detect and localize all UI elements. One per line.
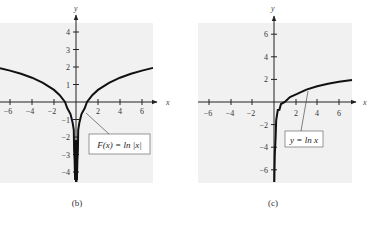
svg-text:6: 6 bbox=[337, 109, 341, 118]
svg-text:6: 6 bbox=[264, 30, 268, 39]
svg-text:3: 3 bbox=[66, 46, 70, 55]
svg-text:−2: −2 bbox=[61, 133, 70, 142]
svg-text:2: 2 bbox=[66, 63, 70, 72]
svg-text:4: 4 bbox=[264, 53, 268, 62]
function-label-b: F(x) = ln |x| bbox=[96, 140, 141, 150]
chart-panel-b: x y −6 −4 −2 2 4 6 bbox=[0, 4, 170, 208]
chart-panel-c: x y −6 −4 −2 2 4 6 2 bbox=[198, 4, 367, 208]
svg-text:−4: −4 bbox=[259, 143, 268, 152]
svg-text:−3: −3 bbox=[61, 151, 70, 160]
svg-text:2: 2 bbox=[294, 109, 298, 118]
svg-text:−2: −2 bbox=[48, 107, 57, 116]
svg-text:−4: −4 bbox=[226, 109, 235, 118]
caption-c: (c) bbox=[268, 198, 278, 208]
x-axis-label-c: x bbox=[362, 98, 367, 107]
svg-text:4: 4 bbox=[66, 28, 70, 37]
y-axis-label-c: y bbox=[270, 4, 275, 13]
svg-text:−2: −2 bbox=[259, 121, 268, 130]
figure-canvas: x y −6 −4 −2 2 4 6 bbox=[0, 0, 377, 227]
svg-text:−6: −6 bbox=[204, 109, 213, 118]
svg-text:2: 2 bbox=[264, 75, 268, 84]
svg-text:−6: −6 bbox=[259, 166, 268, 175]
svg-text:4: 4 bbox=[315, 109, 319, 118]
svg-text:6: 6 bbox=[140, 107, 144, 116]
y-axis-label-b: y bbox=[73, 4, 78, 13]
svg-text:−6: −6 bbox=[4, 107, 13, 116]
svg-text:−4: −4 bbox=[61, 168, 70, 177]
caption-b: (b) bbox=[72, 198, 83, 208]
svg-text:2: 2 bbox=[96, 107, 100, 116]
svg-text:4: 4 bbox=[118, 107, 122, 116]
svg-text:−4: −4 bbox=[26, 107, 35, 116]
x-axis-label-b: x bbox=[165, 98, 170, 107]
svg-text:1: 1 bbox=[66, 81, 70, 90]
function-label-c: y = ln x bbox=[289, 135, 318, 145]
svg-text:−2: −2 bbox=[247, 109, 256, 118]
asymptote-shading-b bbox=[75, 140, 78, 182]
svg-text:−1: −1 bbox=[61, 116, 70, 125]
